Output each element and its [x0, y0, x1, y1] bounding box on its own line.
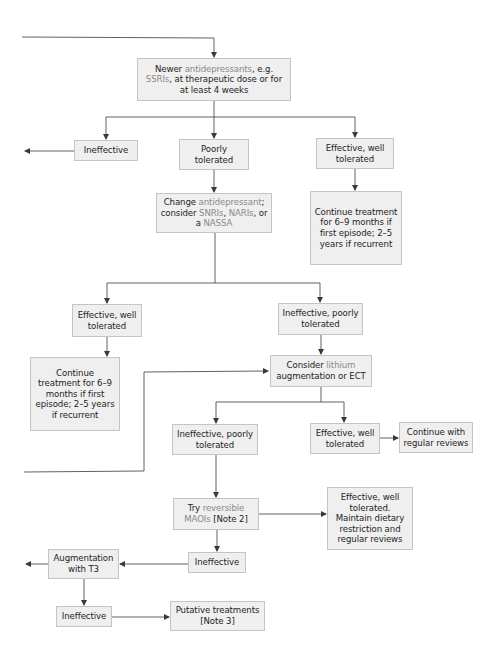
node-effective-3: Effective, well tolerated [310, 423, 380, 454]
highlight-term: NASSA [204, 218, 233, 228]
label: Augmentation with T3 [52, 553, 115, 574]
label: Ineffective, poorly tolerated [176, 429, 254, 450]
text: Consider [287, 360, 327, 370]
highlight-term: lithium [326, 360, 355, 370]
label: Continue treatment for 6–9 months if fir… [34, 368, 116, 421]
node-poorly-tolerated: Poorly tolerated [179, 139, 249, 170]
node-consider-lithium: Consider lithium augmentation or ECT [270, 355, 372, 387]
node-continue-2: Continue treatment for 6–9 months if fir… [30, 357, 120, 431]
label: Putative treatments [Note 3] [174, 605, 261, 626]
node-augmentation-t3: Augmentation with T3 [48, 549, 119, 579]
label: Ineffective [195, 557, 239, 568]
highlight-term: antidepressants [185, 64, 252, 74]
label: Effective, well tolerated [76, 310, 138, 331]
label: Poorly tolerated [189, 144, 239, 165]
label: Effective, well tolerated [314, 428, 376, 449]
node-effective-maoi: Effective, well tolerated. Maintain diet… [327, 487, 413, 550]
text: augmentation or ECT [276, 371, 365, 381]
highlight-term: SSRIs [146, 74, 169, 84]
node-try-maois: Try reversible MAOIs [Note 2] [173, 498, 259, 530]
node-newer-antidepressants: Newer antidepressants, e.g. SSRIs, at th… [137, 58, 291, 101]
text: Newer [155, 64, 185, 74]
text: , at therapeutic dose or for at least 4 … [169, 74, 282, 95]
node-ineffective-1: Ineffective [74, 140, 138, 161]
node-continue-reviews: Continue with regular reviews [399, 422, 473, 453]
node-ineffective-3: Ineffective [188, 552, 246, 573]
label: Continue with regular reviews [403, 427, 469, 448]
node-effective-2: Effective, well tolerated [72, 304, 142, 337]
node-ineffective-4: Ineffective [56, 606, 112, 627]
label: Ineffective [62, 611, 106, 622]
node-change-antidepressant: Change antidepressant; consider SNRIs, N… [156, 193, 272, 233]
node-ineffective-poorly-2: Ineffective, poorly tolerated [172, 424, 258, 455]
node-continue-1: Continue treatment for 6–9 months if fir… [310, 191, 402, 265]
text: , e.g. [252, 64, 273, 74]
highlight-term: antidepressant [199, 197, 262, 207]
label: Ineffective, poorly tolerated [282, 308, 359, 329]
node-putative-treatments: Putative treatments [Note 3] [170, 601, 265, 631]
label: Effective, well tolerated [320, 143, 390, 164]
highlight-term: SNRIs [199, 208, 223, 218]
text: Change [164, 197, 199, 207]
highlight-term: NARIs [229, 208, 254, 218]
node-ineffective-poorly-1: Ineffective, poorly tolerated [278, 303, 363, 335]
text: [Note 2] [211, 514, 248, 524]
label: Continue treatment for 6–9 months if fir… [314, 207, 398, 249]
label: Effective, well tolerated. Maintain diet… [331, 492, 409, 545]
node-effective-1: Effective, well tolerated [316, 138, 394, 169]
label: Ineffective [84, 145, 128, 156]
text: Try [188, 503, 203, 513]
